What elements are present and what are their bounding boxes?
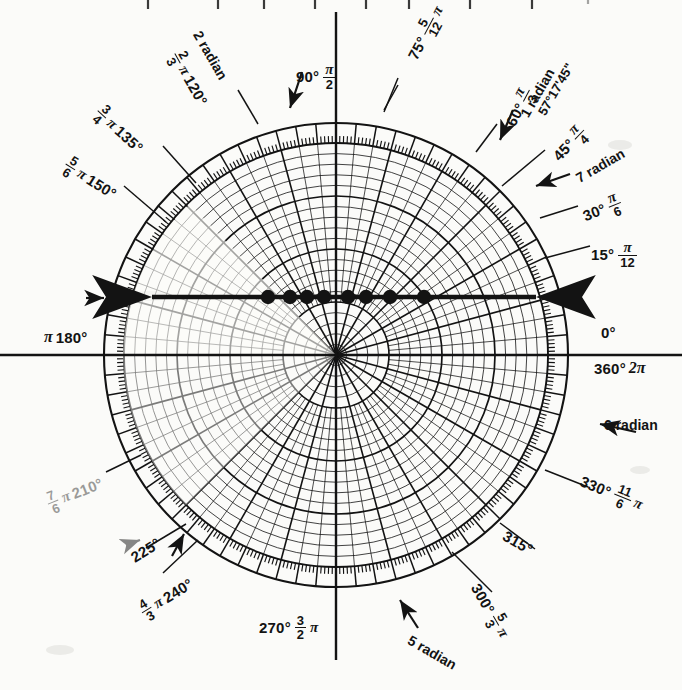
arrow-to-5rad	[400, 600, 418, 628]
scan-edge-ticks	[148, 0, 588, 9]
leader-60	[476, 124, 497, 152]
polar-chart-figure: 90° π 2 75° 5 12 π 60° π 3 1 radi	[0, 0, 682, 690]
label-0-degrees: 0°	[601, 325, 616, 341]
leader-240	[163, 540, 198, 573]
data-point	[317, 290, 331, 304]
fraction-pi-over-12: π 12	[618, 240, 636, 270]
label-270-degrees: 270° 3 2 π	[259, 614, 318, 642]
arrow-to-45	[536, 174, 570, 186]
leader-15	[545, 246, 590, 258]
label-360-degrees-2pi: 360° 2π	[594, 360, 646, 376]
data-point	[341, 290, 355, 304]
leader-120	[238, 90, 258, 124]
leader-45	[502, 150, 545, 186]
data-point	[283, 290, 297, 304]
label-90-degrees: 90° π 2	[296, 62, 337, 92]
arrow-to-225b	[172, 534, 184, 556]
leader-135	[163, 146, 196, 183]
leader-210	[106, 455, 141, 472]
data-point	[359, 290, 373, 304]
label-15-degrees: 15° π 12	[591, 240, 638, 270]
leader-30	[540, 206, 578, 218]
label-180-degrees: π 180°	[44, 329, 88, 345]
data-point	[417, 290, 431, 304]
fraction-pi-over-2: π 2	[323, 62, 335, 92]
leader-75	[384, 78, 398, 112]
data-point	[383, 290, 397, 304]
data-point	[300, 290, 314, 304]
label-6-radian: 6 radian	[604, 417, 658, 433]
data-point	[261, 290, 275, 304]
fraction-3-over-2: 3 2	[295, 614, 306, 642]
